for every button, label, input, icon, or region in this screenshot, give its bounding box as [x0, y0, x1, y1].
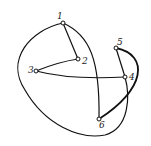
- node-1: [61, 21, 65, 25]
- edge-2-3: [36, 59, 78, 71]
- node-label-2: 2: [81, 56, 88, 66]
- node-label-6: 6: [99, 120, 105, 130]
- node-label-5: 5: [117, 37, 123, 47]
- node-4: [123, 75, 127, 79]
- node-label-3: 3: [28, 65, 34, 75]
- node-label-1: 1: [57, 11, 63, 21]
- edge-5-4: [116, 48, 125, 77]
- node-3: [34, 69, 38, 73]
- edge-1-2: [63, 23, 78, 59]
- node-label-4: 4: [128, 72, 135, 82]
- edge-1-4-outer: [18, 23, 128, 136]
- graph-diagram: 1 2 3 4 5 6: [0, 0, 151, 146]
- edge-5-6: [99, 48, 138, 119]
- edge-3-4: [36, 71, 125, 78]
- node-2: [76, 57, 80, 61]
